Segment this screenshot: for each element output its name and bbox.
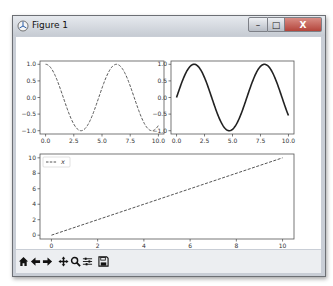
figure-canvas[interactable]: 0.02.55.07.510.01.00.50.0−0.5−1.00.02.55… (16, 37, 321, 249)
y-tick-label: −1.0 (21, 127, 36, 134)
subplot-3: 02468101086420x (28, 154, 294, 249)
sliders-icon (82, 256, 93, 267)
x-tick-label: 7.5 (125, 137, 135, 144)
arrow-left-icon (30, 256, 41, 267)
y-tick-label: −1.0 (152, 127, 167, 134)
figure-window: Figure 1 – □ X 0.02.55.07.510.01.00.50.0… (12, 15, 326, 277)
x-tick-label: 0 (50, 242, 54, 249)
window-title: Figure 1 (32, 20, 68, 30)
axes-frame (40, 61, 164, 134)
y-tick-label: 0.5 (26, 77, 36, 84)
y-tick-label: 1.0 (157, 60, 167, 67)
x-tick-label: 0.0 (41, 137, 51, 144)
forward-button[interactable] (42, 256, 53, 268)
back-button[interactable] (30, 256, 41, 268)
x-tick-label: 0.0 (172, 137, 182, 144)
axes-frame (171, 61, 294, 134)
maximize-button[interactable]: □ (268, 17, 285, 32)
x-tick-label: 4 (142, 242, 146, 249)
app-icon (17, 20, 29, 32)
x-tick-label: 2 (96, 242, 100, 249)
x-tick-label: 10 (279, 242, 287, 249)
y-tick-label: 0 (32, 231, 36, 238)
home-button[interactable] (18, 256, 29, 268)
magnifier-icon (70, 256, 81, 267)
x-tick-label: 8 (234, 242, 238, 249)
legend: x (43, 157, 70, 167)
maximize-icon: □ (272, 20, 281, 30)
x-tick-label: 7.5 (256, 137, 266, 144)
minimize-icon: – (256, 20, 261, 30)
y-tick-label: 4 (32, 200, 36, 207)
x-tick-label: 5.0 (97, 137, 107, 144)
y-tick-label: 10 (28, 154, 36, 161)
x-tick-label: 6 (188, 242, 192, 249)
x-tick-label: 2.5 (69, 137, 79, 144)
close-button[interactable]: X (285, 17, 322, 32)
y-tick-label: 0.0 (26, 94, 36, 101)
minimize-button[interactable]: – (248, 17, 268, 32)
y-tick-label: 1.0 (26, 60, 36, 67)
y-tick-label: 6 (32, 185, 36, 192)
move-icon (58, 256, 69, 267)
x-tick-label: 10.0 (152, 137, 166, 144)
title-bar[interactable]: Figure 1 – □ X (13, 16, 325, 36)
x-tick-label: 2.5 (200, 137, 210, 144)
pan-button[interactable] (58, 256, 69, 268)
x-tick-label: 5.0 (228, 137, 238, 144)
subplot-2: 0.02.55.07.510.01.00.50.0−0.5−1.0 (152, 60, 295, 144)
close-icon: X (300, 20, 307, 30)
figure-plots: 0.02.55.07.510.01.00.50.0−0.5−1.00.02.55… (16, 37, 321, 249)
y-tick-label: 8 (32, 169, 36, 176)
navigation-toolbar (16, 250, 321, 273)
y-tick-label: −0.5 (21, 110, 36, 117)
x-tick-label: 10.0 (282, 137, 296, 144)
y-tick-label: −0.5 (152, 110, 167, 117)
subplot-1: 0.02.55.07.510.01.00.50.0−0.5−1.0 (21, 60, 165, 144)
home-icon (18, 256, 29, 267)
y-tick-label: 0.0 (157, 94, 167, 101)
arrow-right-icon (42, 256, 53, 267)
y-tick-label: 0.5 (157, 77, 167, 84)
save-button[interactable] (98, 256, 109, 268)
configure-subplots-button[interactable] (82, 256, 93, 268)
legend-label: x (60, 158, 65, 166)
floppy-disk-icon (98, 256, 109, 267)
y-tick-label: 2 (32, 216, 36, 223)
zoom-button[interactable] (70, 256, 81, 268)
